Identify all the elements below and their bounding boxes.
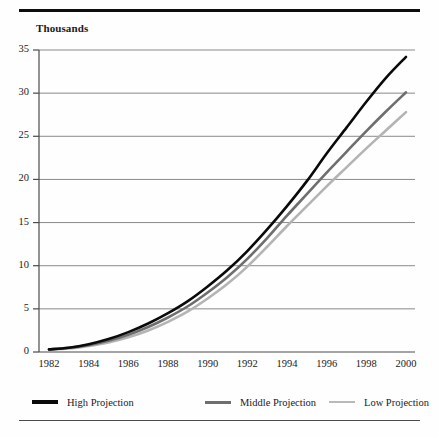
legend-swatch-icon xyxy=(32,400,58,404)
legend-item[interactable]: Low Projection xyxy=(329,394,429,410)
bottom-divider-rule xyxy=(19,420,420,421)
x-tick-label: 1996 xyxy=(307,358,347,369)
y-tick-label: 5 xyxy=(7,302,29,313)
x-tick-label: 1990 xyxy=(188,358,228,369)
x-tick-label: 1998 xyxy=(346,358,386,369)
series-line-low-projection xyxy=(49,112,406,349)
legend-label: High Projection xyxy=(67,397,134,408)
x-tick-label: 1984 xyxy=(69,358,109,369)
y-tick-label: 35 xyxy=(7,43,29,54)
legend-label: Middle Projection xyxy=(240,397,316,408)
y-tick-label: 0 xyxy=(7,345,29,356)
chart-plot-area xyxy=(0,0,439,438)
legend-label: Low Projection xyxy=(364,397,429,408)
chart-legend: High ProjectionMiddle ProjectionLow Proj… xyxy=(19,394,420,414)
y-tick-label: 30 xyxy=(7,86,29,97)
x-tick-label: 2000 xyxy=(386,358,426,369)
chart-page: Thousands 35302520151050 198219841986198… xyxy=(0,0,439,438)
x-tick-label: 1992 xyxy=(227,358,267,369)
y-tick-label: 20 xyxy=(7,172,29,183)
series-line-high-projection xyxy=(49,57,406,350)
legend-item[interactable]: High Projection xyxy=(32,394,134,410)
legend-item[interactable]: Middle Projection xyxy=(205,394,316,410)
y-tick-label: 15 xyxy=(7,216,29,227)
x-tick-label: 1994 xyxy=(267,358,307,369)
x-tick-label: 1986 xyxy=(108,358,148,369)
x-tick-label: 1988 xyxy=(148,358,188,369)
legend-swatch-icon xyxy=(329,401,355,403)
series-line-middle-projection xyxy=(49,92,406,349)
y-tick-label: 10 xyxy=(7,259,29,270)
x-tick-label: 1982 xyxy=(29,358,69,369)
y-tick-label: 25 xyxy=(7,129,29,140)
legend-swatch-icon xyxy=(205,401,231,404)
